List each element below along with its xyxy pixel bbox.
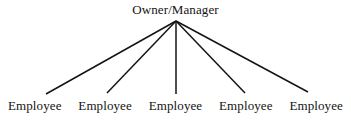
connector-line-5 <box>176 21 308 92</box>
leaf-node-label-2: Employee <box>78 98 132 114</box>
leaf-node-row: Employee Employee Employee Employee Empl… <box>0 98 351 116</box>
leaf-node-label-4: Employee <box>219 98 273 114</box>
leaf-node-label-1: Employee <box>8 98 62 114</box>
connector-line-1 <box>46 21 176 94</box>
connector-line-4 <box>176 21 245 93</box>
leaf-node-label-3: Employee <box>149 98 203 114</box>
leaf-node-label-5: Employee <box>289 98 343 114</box>
connector-line-2 <box>107 21 176 93</box>
org-chart-diagram: Owner/Manager Employee Employee Employee… <box>0 0 351 125</box>
